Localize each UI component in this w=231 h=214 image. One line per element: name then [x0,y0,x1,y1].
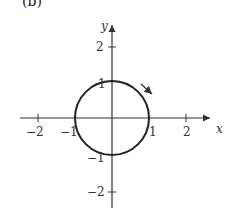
direction-arrow-icon [141,84,152,94]
y-axis-label: y [100,19,108,33]
y-tick-label: −1 [87,151,105,165]
x-tick-label: −1 [60,125,78,139]
x-axis-label: x [216,122,223,136]
y-tick-label: −2 [87,185,105,199]
y-tick-label: 1 [98,77,106,91]
x-tick-label: 2 [183,125,191,139]
x-tick-label: 1 [149,125,157,139]
part-label: (b) [22,0,42,9]
x-tick-label: −2 [26,125,44,139]
y-tick-label: 2 [96,40,104,54]
figure-canvas: (b) x y −2 −1 1 2 2 1 −1 −2 [0,0,231,214]
